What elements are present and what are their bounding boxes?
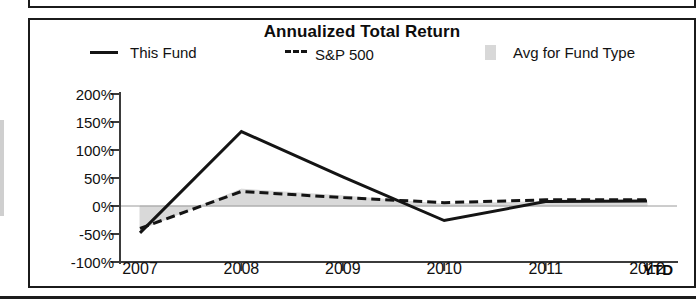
x-axis-tick-label: 2007: [122, 260, 158, 278]
annualized-total-return-chart-panel: Annualized Total Return This Fund S&P 50…: [28, 18, 696, 288]
dashed-line-swatch-icon: [285, 50, 307, 53]
scanned-page-box-above: [28, 0, 696, 8]
series-area-avg-for-fund-type: [140, 189, 647, 229]
x-axis-tick-label: 2011: [528, 260, 562, 278]
y-axis-tick-label: 200%: [76, 86, 114, 103]
chart-legend: This Fund S&P 500 Avg for Fund Type: [30, 44, 694, 66]
y-axis-tick-label: 150%: [76, 114, 114, 131]
legend-label-sp500: S&P 500: [315, 46, 374, 63]
legend-label-this-fund: This Fund: [130, 44, 197, 61]
y-axis-tick-label: 50%: [84, 170, 114, 187]
legend-item-sp500: S&P 500: [285, 46, 374, 63]
legend-item-this-fund: This Fund: [90, 44, 197, 61]
legend-label-avg-for-fund-type: Avg for Fund Type: [513, 44, 635, 61]
x-axis-tick-label: 2008: [224, 260, 260, 278]
solid-line-swatch-icon: [90, 51, 118, 54]
x-axis-unit-label: YTD: [643, 261, 673, 278]
x-axis-tick-labels: 200720082009201020112012: [30, 260, 696, 288]
series-line-this-fund: [140, 132, 647, 233]
chart-plot-svg: [30, 64, 696, 288]
y-axis-tick-label: -50%: [79, 226, 114, 243]
plot-area: 200%150%100%50%0%-50%-100% 2007200820092…: [30, 64, 696, 288]
scanned-page-bottom-rule: [0, 296, 696, 299]
x-axis-tick-label: 2010: [426, 260, 462, 278]
series-line-s-p-500: [140, 191, 647, 228]
y-axis-tick-label: 0%: [92, 198, 114, 215]
legend-item-avg-for-fund-type: Avg for Fund Type: [485, 44, 635, 61]
chart-title: Annualized Total Return: [30, 22, 694, 42]
x-axis-tick-label: 2009: [325, 260, 361, 278]
gray-box-swatch-icon: [485, 45, 496, 60]
y-axis-tick-label: 100%: [76, 142, 114, 159]
scanned-page-left-edge-artifact: [0, 120, 4, 216]
y-axis-tick-labels: 200%150%100%50%0%-50%-100%: [30, 64, 114, 288]
